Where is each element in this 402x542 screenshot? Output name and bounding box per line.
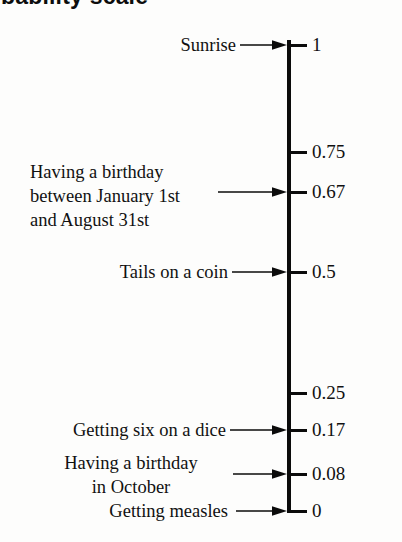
scale-tick-label: 0.17 <box>312 420 345 439</box>
pointer-arrow-tails-on-a-coin <box>232 267 287 277</box>
scale-tick-label: 0 <box>312 501 322 520</box>
scale-tick-label: 0.75 <box>312 142 345 161</box>
pointer-arrow-birthday-in-october <box>233 469 287 479</box>
event-label-birthday-january-to-august: Having a birthday between January 1st an… <box>30 160 240 232</box>
figure-title: Probability scale <box>0 0 402 11</box>
probability-scale-figure: Probability scale 10.750.670.50.250.170.… <box>0 0 402 542</box>
scale-tick <box>289 271 307 274</box>
event-label-birthday-in-october: Having a birthday in October <box>36 451 226 499</box>
probability-scale-axis <box>287 40 291 513</box>
pointer-arrow-sunrise <box>240 40 287 50</box>
scale-tick <box>289 510 307 513</box>
scale-tick <box>289 151 307 154</box>
scale-tick-label: 0.25 <box>312 383 345 402</box>
figure-title-text: Probability scale <box>0 0 148 10</box>
scale-tick <box>289 473 307 476</box>
scale-tick-label: 1 <box>312 35 322 54</box>
scale-tick-label: 0.67 <box>312 182 345 201</box>
event-label-getting-six-on-a-dice: Getting six on a dice <box>20 418 226 442</box>
event-label-getting-measles: Getting measles <box>60 499 228 523</box>
scale-tick <box>289 392 307 395</box>
pointer-arrow-getting-six-on-a-dice <box>230 425 287 435</box>
event-label-tails-on-a-coin: Tails on a coin <box>60 260 228 284</box>
scale-tick <box>289 191 307 194</box>
scale-tick-label: 0.08 <box>312 464 345 483</box>
scale-tick-label: 0.5 <box>312 262 336 281</box>
pointer-arrow-birthday-january-to-august <box>218 187 287 197</box>
event-label-sunrise: Sunrise <box>40 33 236 57</box>
scale-tick <box>289 44 307 47</box>
scale-tick <box>289 429 307 432</box>
pointer-arrow-getting-measles <box>236 506 287 516</box>
